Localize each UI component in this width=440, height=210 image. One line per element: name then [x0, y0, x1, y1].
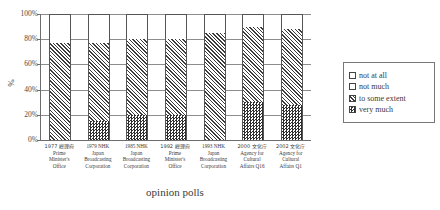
bar-column[interactable]	[242, 14, 264, 140]
x-tick-label-line: Office	[157, 163, 193, 170]
x-tick-label-line: Japan	[118, 150, 154, 157]
x-tick-label: 1993 NHKJapanBroadcastingCorporation	[196, 143, 232, 169]
y-tick-label: 20%	[24, 111, 38, 119]
x-tick-label-line: 1992 総理府	[157, 143, 193, 150]
legend-swatch-icon	[349, 83, 356, 90]
legend-label: not much	[359, 82, 389, 91]
bar-column[interactable]	[281, 14, 303, 140]
bar-segment	[49, 43, 71, 140]
legend-label: very much	[359, 105, 393, 114]
bar-segment	[165, 115, 187, 140]
legend-label: to some extent	[359, 94, 406, 103]
x-axis-tick-labels: 1977 総理府PrimeMinister'sOffice1979 NHKJap…	[40, 143, 310, 183]
x-tick-label: 1985 NHKJapanBroadcastingCorporation	[118, 143, 154, 169]
x-axis-title: opinion polls	[40, 186, 310, 198]
chart-legend: not at allnot muchto some extentvery muc…	[343, 62, 435, 123]
x-tick-label: 1992 総理府PrimeMinister'sOffice	[157, 143, 193, 169]
x-tick-label-line: Office	[41, 163, 77, 170]
x-tick-label-line: 1979 NHK	[80, 143, 116, 150]
x-tick-label: 1979 NHKJapanBroadcastingCorporation	[80, 143, 116, 169]
y-tick-mark	[37, 140, 41, 141]
x-tick-label-line: Cultural	[234, 156, 270, 163]
bar-segment	[88, 121, 110, 140]
plot-axes	[40, 14, 311, 141]
plot-area: % 0%20%40%60%80%100% 1977 総理府PrimeMinist…	[0, 0, 330, 185]
x-tick-label-line: Broadcasting	[196, 156, 232, 163]
x-tick-label-line: Japan	[80, 150, 116, 157]
y-tick-label: 80%	[24, 35, 38, 43]
bar-segment	[242, 14, 264, 27]
bar-series-group	[41, 14, 311, 140]
legend-item[interactable]: to some extent	[349, 94, 430, 103]
bar-segment	[126, 39, 148, 115]
legend-item[interactable]: very much	[349, 105, 430, 114]
x-tick-label-line: Affairs Q1	[273, 163, 309, 170]
y-tick-label: 100%	[21, 10, 39, 18]
bar-segment	[242, 102, 264, 140]
bar-segment	[126, 115, 148, 140]
bar-segment	[204, 33, 226, 140]
legend-item[interactable]: not much	[349, 82, 430, 91]
chart-figure: % 0%20%40%60%80%100% 1977 総理府PrimeMinist…	[0, 0, 440, 210]
legend-item[interactable]: not at all	[349, 71, 430, 80]
x-tick-label-line: Minister's	[41, 156, 77, 163]
x-tick-label-line: Minister's	[157, 156, 193, 163]
x-tick-label-line: Agency for	[234, 150, 270, 157]
legend-swatch-icon	[349, 106, 356, 113]
x-tick-label-line: Corporation	[118, 163, 154, 170]
x-tick-label: 2002 文化庁Agency forCulturalAffairs Q1	[273, 143, 309, 169]
x-tick-label-line: Corporation	[80, 163, 116, 170]
bar-column[interactable]	[49, 14, 71, 140]
x-tick-label-line: Broadcasting	[118, 156, 154, 163]
x-tick-label: 2000 文化庁Agency forCulturalAffairs Q16	[234, 143, 270, 169]
bar-segment	[88, 14, 110, 43]
x-tick-label-line: Corporation	[196, 163, 232, 170]
legend-swatch-icon	[349, 72, 356, 79]
x-tick-label-line: Agency for	[273, 150, 309, 157]
y-tick-label: 60%	[24, 60, 38, 68]
bar-segment	[281, 29, 303, 105]
x-tick-label-line: Affairs Q16	[234, 163, 270, 170]
bar-segment	[165, 14, 187, 39]
bar-segment	[204, 14, 226, 33]
y-tick-label: 40%	[24, 86, 38, 94]
x-tick-label-line: Prime	[157, 150, 193, 157]
x-tick-label-line: 2000 文化庁	[234, 143, 270, 150]
x-tick-label-line: Prime	[41, 150, 77, 157]
x-tick-label-line: Cultural	[273, 156, 309, 163]
bar-column[interactable]	[126, 14, 148, 140]
x-tick-label-line: 1985 NHK	[118, 143, 154, 150]
legend-label: not at all	[359, 71, 387, 80]
bar-segment	[281, 14, 303, 29]
y-axis-tick-labels: 0%20%40%60%80%100%	[12, 14, 38, 140]
bar-segment	[88, 43, 110, 121]
x-tick-label-line: 2002 文化庁	[273, 143, 309, 150]
x-tick-label: 1977 総理府PrimeMinister'sOffice	[41, 143, 77, 169]
legend-swatch-icon	[349, 95, 356, 102]
x-tick-label-line: 1977 総理府	[41, 143, 77, 150]
x-tick-label-line: 1993 NHK	[196, 143, 232, 150]
bar-segment	[242, 27, 264, 103]
x-tick-label-line: Japan	[196, 150, 232, 157]
bar-segment	[165, 39, 187, 115]
bar-column[interactable]	[165, 14, 187, 140]
bar-column[interactable]	[88, 14, 110, 140]
x-tick-label-line: Broadcasting	[80, 156, 116, 163]
bar-segment	[281, 105, 303, 140]
bar-segment	[49, 14, 71, 43]
bar-segment	[126, 14, 148, 39]
bar-column[interactable]	[204, 14, 226, 140]
